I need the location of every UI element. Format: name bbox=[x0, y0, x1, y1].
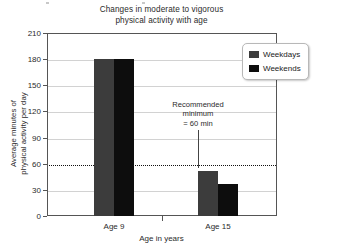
x-tick-label-age15: Age 15 bbox=[183, 222, 253, 231]
y-tick-label-90: 90 bbox=[15, 133, 41, 142]
y-tick-label-120: 120 bbox=[15, 107, 41, 116]
x-tick-center bbox=[162, 216, 163, 221]
y-tick-0 bbox=[43, 216, 47, 217]
chart-title: Changes in moderate to vigorous physical… bbox=[47, 5, 276, 26]
x-tick-label-age9: Age 9 bbox=[79, 222, 149, 231]
y-tick-30 bbox=[43, 190, 47, 191]
chart-container: Changes in moderate to vigorous physical… bbox=[0, 0, 338, 247]
page-artifact bbox=[46, 2, 49, 4]
annotation-leader-line bbox=[198, 130, 199, 168]
annotation-line-1: Recommended bbox=[152, 100, 244, 109]
bar-age15-weekdays bbox=[198, 171, 218, 216]
legend-item-weekdays: Weekdays bbox=[249, 49, 301, 60]
legend-swatch-icon-weekdays bbox=[249, 51, 259, 58]
y-tick-150 bbox=[43, 85, 47, 86]
y-tick-label-180: 180 bbox=[15, 55, 41, 64]
y-tick-90 bbox=[43, 138, 47, 139]
legend-item-weekends: Weekends bbox=[249, 63, 301, 74]
x-axis-title: Age in years bbox=[47, 234, 276, 243]
y-tick-210 bbox=[43, 33, 47, 34]
chart-legend: Weekdays Weekends bbox=[242, 43, 309, 80]
chart-title-line-2: physical activity with age bbox=[47, 16, 276, 27]
y-tick-label-150: 150 bbox=[15, 81, 41, 90]
chart-title-line-1: Changes in moderate to vigorous bbox=[47, 5, 276, 16]
annotation-line-3: = 60 min bbox=[152, 119, 244, 128]
y-tick-180 bbox=[43, 59, 47, 60]
legend-label-weekends: Weekends bbox=[263, 64, 301, 73]
recommended-minimum-annotation: Recommended minimum = 60 min bbox=[152, 100, 244, 128]
legend-swatch-icon-weekends bbox=[249, 65, 259, 72]
bar-age9-weekdays bbox=[94, 59, 114, 216]
legend-label-weekdays: Weekdays bbox=[263, 50, 300, 59]
y-tick-120 bbox=[43, 111, 47, 112]
page-artifact bbox=[142, 2, 145, 4]
y-tick-label-210: 210 bbox=[15, 29, 41, 38]
y-tick-label-0: 0 bbox=[15, 212, 41, 221]
y-tick-label-30: 30 bbox=[15, 185, 41, 194]
y-tick-60 bbox=[43, 164, 47, 165]
annotation-line-2: minimum bbox=[152, 109, 244, 118]
y-tick-label-60: 60 bbox=[15, 159, 41, 168]
bar-age15-weekends bbox=[218, 184, 238, 216]
bar-age9-weekends bbox=[114, 59, 134, 216]
